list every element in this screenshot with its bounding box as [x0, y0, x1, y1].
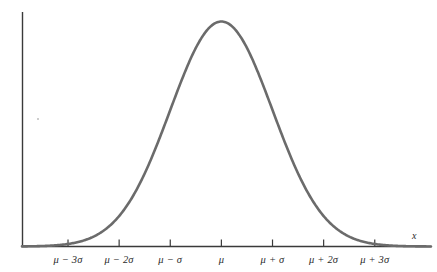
- normal-distribution-figure: μ − 3σμ − 2σμ − σμμ + σμ + 2σμ + 3σ x: [0, 0, 437, 272]
- plot-area: [0, 0, 437, 272]
- x-axis-tick-label: μ + 3σ: [360, 255, 389, 266]
- scan-speck: [37, 118, 39, 120]
- x-axis-title: x: [412, 231, 416, 241]
- x-axis-tick-label: μ − 3σ: [53, 255, 82, 266]
- x-axis-tick-label: μ − 2σ: [105, 255, 134, 266]
- x-axis-ticks: [68, 240, 375, 247]
- x-axis-tick-label: μ: [219, 255, 224, 266]
- normal-curve: [22, 22, 431, 247]
- x-axis-tick-label: μ + 2σ: [309, 255, 338, 266]
- x-axis-tick-label: μ − σ: [158, 255, 182, 266]
- x-axis-tick-label: μ + σ: [261, 255, 285, 266]
- axes-group: [22, 12, 431, 247]
